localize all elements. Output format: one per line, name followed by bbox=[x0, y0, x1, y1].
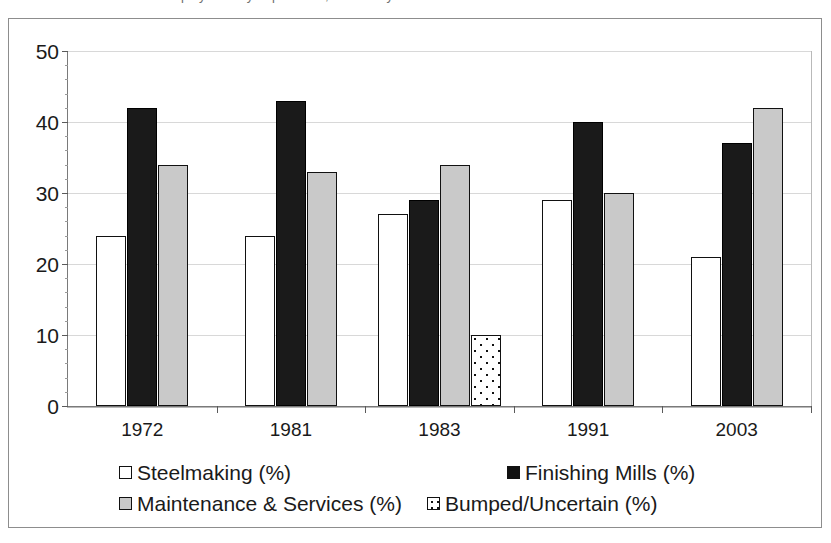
y-axis-label: 50 bbox=[36, 41, 59, 62]
y-axis-minor-tick bbox=[65, 65, 68, 66]
y-axis-label: 0 bbox=[47, 396, 59, 417]
bar-steelmaking-1983 bbox=[378, 214, 408, 406]
bar-steelmaking-1981 bbox=[245, 236, 275, 406]
x-axis-tick bbox=[662, 406, 663, 413]
y-axis-minor-tick bbox=[65, 108, 68, 109]
y-axis-minor-tick bbox=[65, 321, 68, 322]
y-axis-tick bbox=[62, 51, 68, 52]
y-axis-minor-tick bbox=[65, 179, 68, 180]
x-axis-label-1991: 1991 bbox=[567, 420, 609, 439]
bar-finishing-1972 bbox=[127, 108, 157, 406]
y-axis-label: 40 bbox=[36, 112, 59, 133]
x-axis-tick bbox=[365, 406, 366, 413]
y-axis-label: 10 bbox=[36, 325, 59, 346]
y-axis-minor-tick bbox=[65, 79, 68, 80]
gridline bbox=[68, 122, 811, 123]
gridline bbox=[68, 51, 811, 52]
y-axis-tick bbox=[62, 264, 68, 265]
y-axis-minor-tick bbox=[65, 207, 68, 208]
y-axis-minor-tick bbox=[65, 94, 68, 95]
legend-swatch-white-square-icon bbox=[119, 466, 132, 479]
legend-item-finishing[interactable]: Finishing Mills (%) bbox=[507, 457, 695, 488]
y-axis-minor-tick bbox=[65, 165, 68, 166]
y-axis-minor-tick bbox=[65, 349, 68, 350]
bar-steelmaking-1991 bbox=[542, 200, 572, 406]
bar-maintenance-1981 bbox=[307, 172, 337, 406]
y-axis-tick bbox=[62, 193, 68, 194]
y-axis-minor-tick bbox=[65, 378, 68, 379]
bar-maintenance-1991 bbox=[604, 193, 634, 406]
bar-steelmaking-2003 bbox=[691, 257, 721, 406]
y-axis-minor-tick bbox=[65, 236, 68, 237]
x-axis-label-1981: 1981 bbox=[270, 420, 312, 439]
legend-item-bumped[interactable]: Bumped/Uncertain (%) bbox=[427, 488, 657, 519]
x-axis-label-1972: 1972 bbox=[121, 420, 163, 439]
legend-label-maintenance: Maintenance & Services (%) bbox=[137, 493, 402, 514]
bar-maintenance-1983 bbox=[440, 165, 470, 406]
y-axis-minor-tick bbox=[65, 392, 68, 393]
y-axis-minor-tick bbox=[65, 292, 68, 293]
y-axis-label: 30 bbox=[36, 183, 59, 204]
y-axis-tick bbox=[62, 122, 68, 123]
y-axis-minor-tick bbox=[65, 221, 68, 222]
bar-finishing-1983 bbox=[409, 200, 439, 406]
legend-swatch-gray-square-icon bbox=[119, 497, 132, 510]
bar-finishing-1981 bbox=[276, 101, 306, 406]
x-axis-tick bbox=[217, 406, 218, 413]
bar-finishing-2003 bbox=[722, 143, 752, 406]
bar-maintenance-1972 bbox=[158, 165, 188, 406]
cropped-title-text: Steelworker employment by department, se… bbox=[88, 0, 419, 3]
legend-item-steelmaking[interactable]: Steelmaking (%) bbox=[119, 457, 291, 488]
x-axis-label-2003: 2003 bbox=[716, 420, 758, 439]
x-axis-tick bbox=[514, 406, 515, 413]
bar-maintenance-2003 bbox=[753, 108, 783, 406]
legend-label-bumped: Bumped/Uncertain (%) bbox=[445, 493, 657, 514]
y-axis-minor-tick bbox=[65, 307, 68, 308]
x-axis-tick bbox=[811, 406, 812, 413]
legend-item-maintenance[interactable]: Maintenance & Services (%) bbox=[119, 488, 402, 519]
y-axis-minor-tick bbox=[65, 278, 68, 279]
plot-area: 01020304050 19721981198319912003 bbox=[67, 51, 811, 407]
cropped-title-sliver: Steelworker employment by department, se… bbox=[0, 0, 831, 10]
bar-finishing-1991 bbox=[573, 122, 603, 406]
bar-bumped-1983 bbox=[471, 335, 501, 406]
bar-steelmaking-1972 bbox=[96, 236, 126, 406]
legend-row-2: Maintenance & Services (%)Bumped/Uncerta… bbox=[67, 488, 811, 519]
legend-swatch-black-square-icon bbox=[507, 466, 520, 479]
legend-swatch-dotted-square-icon bbox=[427, 497, 440, 510]
y-axis-tick bbox=[62, 406, 68, 407]
y-axis-minor-tick bbox=[65, 250, 68, 251]
legend-label-steelmaking: Steelmaking (%) bbox=[137, 462, 291, 483]
y-axis-minor-tick bbox=[65, 150, 68, 151]
y-axis-minor-tick bbox=[65, 363, 68, 364]
y-axis-minor-tick bbox=[65, 136, 68, 137]
chart-legend: Steelmaking (%)Finishing Mills (%) Maint… bbox=[67, 457, 811, 519]
x-axis-label-1983: 1983 bbox=[418, 420, 460, 439]
chart-frame: 01020304050 19721981198319912003 Steelma… bbox=[8, 18, 822, 528]
legend-row-1: Steelmaking (%)Finishing Mills (%) bbox=[67, 457, 811, 488]
legend-label-finishing: Finishing Mills (%) bbox=[525, 462, 695, 483]
y-axis-label: 20 bbox=[36, 254, 59, 275]
y-axis-tick bbox=[62, 335, 68, 336]
